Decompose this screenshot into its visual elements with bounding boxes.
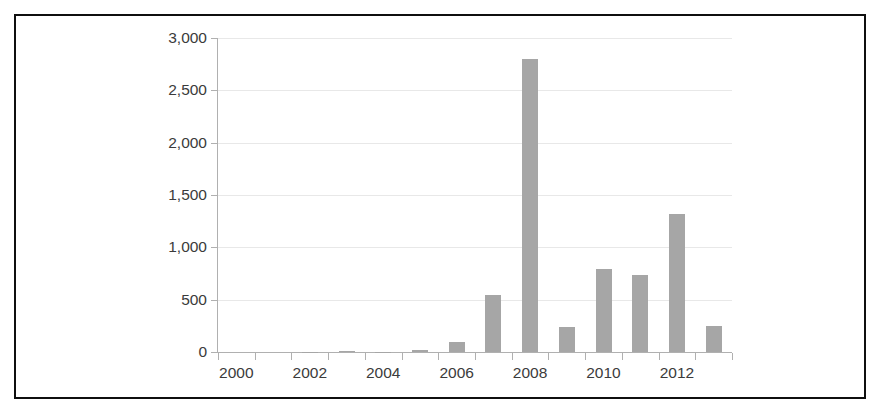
x-tick-label-2008: 2008 [495, 364, 565, 382]
x-tick-mark-2009 [548, 353, 549, 360]
x-tick-mark-2012 [659, 353, 660, 360]
x-tick-mark-2008 [512, 353, 513, 360]
y-tick-label-1500: 1,500 [147, 186, 207, 204]
bars-group [218, 38, 732, 352]
y-tick-mark-1000 [211, 247, 218, 248]
bar-2005 [412, 350, 428, 352]
bar-2008 [522, 59, 538, 352]
x-tick-label-2004: 2004 [348, 364, 418, 382]
x-tick-mark-2004 [365, 353, 366, 360]
x-tick-mark-2013 [695, 353, 696, 360]
y-tick-mark-500 [211, 300, 218, 301]
bar-chart: 05001,0001,5002,0002,5003,000 2000200220… [0, 0, 885, 413]
y-tick-label-3000: 3,000 [147, 29, 207, 47]
x-tick-label-2002: 2002 [275, 364, 345, 382]
x-tick-label-2006: 2006 [422, 364, 492, 382]
x-tick-mark-2003 [328, 353, 329, 360]
x-tick-mark-2006 [438, 353, 439, 360]
bar-2006 [449, 342, 465, 352]
y-tick-label-2000: 2,000 [147, 134, 207, 152]
x-tick-mark-2005 [402, 353, 403, 360]
y-tick-mark-2500 [211, 90, 218, 91]
y-tick-mark-1500 [211, 195, 218, 196]
x-tick-label-2000: 2000 [201, 364, 271, 382]
figure-container: 05001,0001,5002,0002,5003,000 2000200220… [0, 0, 885, 413]
bar-2012 [669, 214, 685, 352]
y-tick-mark-0 [211, 352, 218, 353]
bar-2007 [485, 295, 501, 352]
x-tick-label-2012: 2012 [642, 364, 712, 382]
x-tick-mark-2010 [585, 353, 586, 360]
y-tick-label-1000: 1,000 [147, 238, 207, 256]
bar-2003 [339, 351, 355, 352]
x-tick-mark-2002 [291, 353, 292, 360]
x-tick-mark-end [732, 353, 733, 360]
bar-2013 [706, 326, 722, 352]
y-tick-mark-3000 [211, 38, 218, 39]
bar-2009 [559, 327, 575, 352]
x-tick-mark-2007 [475, 353, 476, 360]
bar-2011 [632, 275, 648, 352]
x-tick-mark-2001 [255, 353, 256, 360]
y-tick-label-2500: 2,500 [147, 81, 207, 99]
x-tick-label-2010: 2010 [569, 364, 639, 382]
x-tick-mark-2000 [218, 353, 219, 360]
x-tick-mark-2011 [622, 353, 623, 360]
y-tick-mark-2000 [211, 143, 218, 144]
y-tick-label-0: 0 [147, 343, 207, 361]
y-tick-label-500: 500 [147, 291, 207, 309]
bar-2010 [596, 269, 612, 352]
